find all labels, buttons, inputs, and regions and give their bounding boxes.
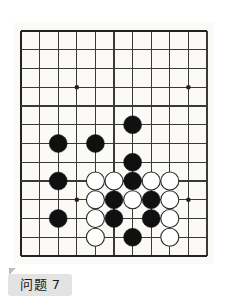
go-board-paper: [14, 22, 214, 264]
page-root: 问题 7: [0, 0, 229, 302]
problem-label-pill[interactable]: 问题 7: [8, 274, 72, 296]
caption-row: 问题 7: [0, 268, 229, 302]
problem-label-text: 问题 7: [20, 276, 60, 294]
